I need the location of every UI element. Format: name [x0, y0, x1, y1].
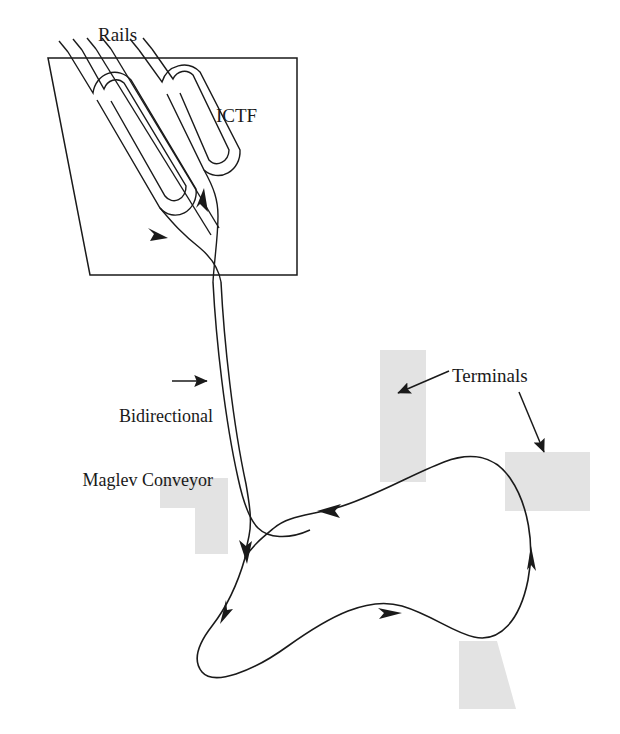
rail-line-1 [59, 41, 68, 52]
loop-flow-arrows [220, 504, 536, 624]
rail-line-6 [143, 38, 152, 49]
label-conveyor-line1: Bidirectional [33, 406, 213, 427]
rail-line-3 [87, 38, 96, 49]
ictf-box [48, 58, 297, 275]
diagram-canvas: Rails ICTF Bidirectional Maglev Conveyor… [0, 0, 620, 734]
label-rails: Rails [98, 24, 137, 46]
arrow-into-loop [148, 228, 168, 241]
rail-loop-left-inner [82, 50, 186, 201]
arrow-loop-right-up [527, 546, 536, 571]
label-maglev-conveyor: Bidirectional Maglev Conveyor [33, 364, 213, 534]
rail-line-2 [73, 39, 82, 50]
label-ictf: ICTF [216, 105, 257, 127]
terminal-right [505, 452, 590, 511]
terminal-bottom-right [459, 641, 516, 709]
rail-loop-left-outer [68, 52, 196, 215]
arrow-conveyor-down [239, 540, 252, 564]
terminal-center [380, 350, 426, 482]
label-conveyor-line2: Maglev Conveyor [33, 470, 213, 491]
leader-terminal-right [519, 392, 544, 452]
arrow-loop-top-left [317, 504, 341, 518]
rail-loops [59, 38, 240, 235]
label-terminals: Terminals [452, 365, 528, 387]
rail-convergence [160, 170, 221, 282]
converge-left [160, 208, 221, 282]
arrow-loop-bottom-right [378, 608, 402, 619]
